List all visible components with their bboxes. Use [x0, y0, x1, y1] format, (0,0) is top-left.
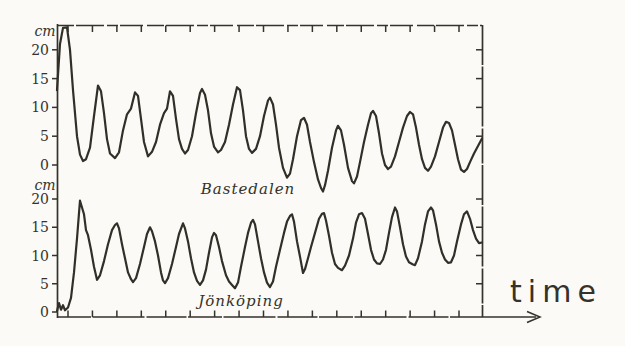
y-tick-label: 0: [40, 157, 49, 173]
y-tick-label: 10: [31, 99, 49, 115]
y-tick-label: 0: [40, 304, 49, 320]
y-tick-label: 15: [31, 219, 49, 235]
y-tick-label: 10: [31, 248, 49, 264]
bastedalen-series-label: Bastedalen: [200, 180, 295, 198]
y-tick-label: 5: [40, 276, 49, 292]
seiche-chart-figure: 0510152005101520 cm cm Bastedalen Jönköp…: [0, 0, 625, 346]
axis-ticks: [52, 26, 482, 318]
top-panel-unit-label: cm: [34, 23, 55, 39]
time-axis-label: time: [510, 274, 602, 309]
jonkoping-series-label: Jönköping: [195, 292, 284, 310]
bottom-panel-unit-label: cm: [34, 177, 55, 193]
y-tick-label: 5: [40, 128, 49, 144]
y-tick-label: 15: [31, 71, 49, 87]
bastedalen-curve: [57, 27, 482, 191]
y-tick-label: 20: [31, 42, 49, 58]
y-tick-label: 20: [31, 191, 49, 207]
water-level-chart: 0510152005101520 cm cm Bastedalen Jönköp…: [0, 0, 625, 346]
